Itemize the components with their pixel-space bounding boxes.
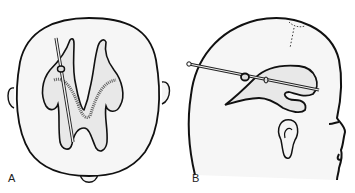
- panel-label-b: B: [192, 172, 199, 184]
- panel-b-lateral-view: B: [177, 0, 355, 193]
- head-lateral-view-illustration: [177, 0, 355, 193]
- burr-hole-icon: [58, 66, 65, 72]
- left-ear-icon: [8, 88, 14, 108]
- panel-label-a: A: [8, 172, 15, 184]
- head-top-view-illustration: [0, 0, 178, 193]
- right-ear-icon: [162, 82, 170, 104]
- panel-a-top-view: A: [0, 0, 178, 193]
- catheter-marker-icon: [264, 77, 268, 83]
- burr-hole-icon: [241, 74, 249, 81]
- catheter-end-icon: [187, 62, 191, 66]
